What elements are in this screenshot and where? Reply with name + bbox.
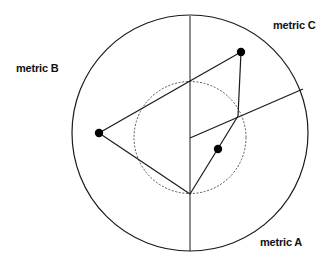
triangle-edge-top-c (190, 52, 241, 81)
triangle-edge-bottom-b (99, 133, 190, 194)
radar-diagram (0, 0, 330, 263)
point-metric-c (237, 48, 245, 56)
label-metric-a: metric A (260, 236, 302, 248)
point-metric-a (214, 145, 222, 153)
triangle-edge-b-top (99, 81, 190, 133)
triangle-edge-c-mid (238, 52, 241, 116)
axis-metric-c (190, 89, 303, 138)
point-metric-b (95, 129, 103, 137)
label-metric-b: metric B (16, 62, 58, 74)
label-metric-c: metric C (273, 19, 315, 31)
